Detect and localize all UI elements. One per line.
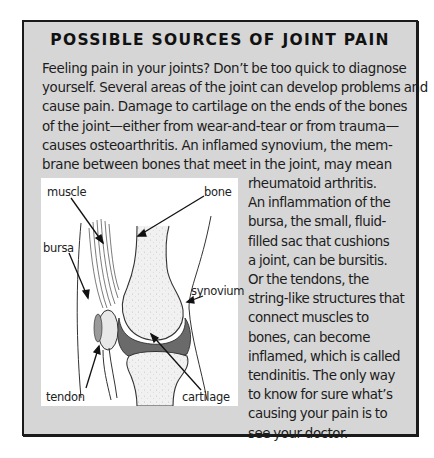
side-line: Or the tendons, the <box>248 270 408 289</box>
label-bone: bone <box>204 185 232 199</box>
label-cartilage: cartilage <box>182 390 230 404</box>
joint-pain-sidebar-box: POSSIBLE SOURCES OF JOINT PAIN Feeling p… <box>22 20 418 436</box>
side-line: bones, can become <box>248 328 408 347</box>
body-line: brane between bones that meet in the joi… <box>42 155 406 174</box>
side-paragraph: rheumatoid arthritis. An inflammation of… <box>248 174 408 443</box>
body-line: yourself. Several areas of the joint can… <box>42 78 406 97</box>
side-line: An inflammation of the <box>248 193 408 212</box>
side-line: string-like structures that <box>248 289 408 308</box>
body-line: causes osteoarthritis. An inflamed synov… <box>42 136 406 155</box>
side-line: see your doctor. <box>248 424 408 443</box>
side-line: tendinitis. The only way <box>248 366 408 385</box>
side-line: rheumatoid arthritis. <box>248 174 408 193</box>
side-line: a joint, can be bursitis. <box>248 251 408 270</box>
label-bursa: bursa <box>43 241 74 255</box>
side-line: filled sac that cushions <box>248 232 408 251</box>
label-tendon: tendon <box>46 390 85 404</box>
side-line: bursa, the small, fluid- <box>248 212 408 231</box>
side-line: connect muscles to <box>248 308 408 327</box>
body-line: of the joint—either from wear-and-tear o… <box>42 117 406 136</box>
body-line: cause pain. Damage to cartilage on the e… <box>42 97 406 116</box>
label-synovium: synovium <box>191 284 244 298</box>
knee-joint-illustration: muscle bone bursa synovium tendon cartil… <box>41 178 238 406</box>
body-paragraph: Feeling pain in your joints? Don’t be to… <box>42 59 406 174</box>
sidebar-title: POSSIBLE SOURCES OF JOINT PAIN <box>24 31 416 49</box>
side-line: to know for sure what’s <box>248 385 408 404</box>
label-muscle: muscle <box>47 185 86 199</box>
body-line: Feeling pain in your joints? Don’t be to… <box>42 59 406 78</box>
side-line: inflamed, which is called <box>248 347 408 366</box>
side-line: causing your pain is to <box>248 404 408 423</box>
